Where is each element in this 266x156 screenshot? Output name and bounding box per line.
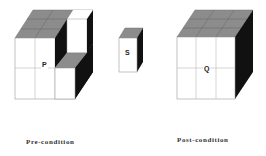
pre-condition-caption: Pre-condition: [26, 138, 75, 146]
block-diagram: [0, 0, 266, 156]
post-condition-caption: Post-condition: [177, 136, 229, 144]
block-label-s: S: [125, 49, 130, 57]
cube-label-q: Q: [203, 65, 210, 73]
cube-label-p: P: [41, 61, 48, 69]
pre-condition-cube: [15, 10, 93, 99]
post-condition-cube: [177, 10, 253, 99]
operand-block: [119, 28, 143, 72]
